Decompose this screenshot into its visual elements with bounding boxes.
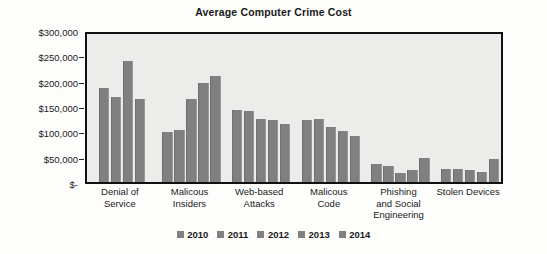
y-axis-tick-label: $300,000 [38, 27, 78, 38]
legend-swatch-icon [298, 231, 305, 238]
bar-group [87, 34, 157, 182]
legend-swatch-icon [177, 231, 184, 238]
legend-label: 2014 [349, 229, 370, 240]
y-axis-tick-label: $150,000 [38, 103, 78, 114]
legend-label: 2012 [268, 229, 289, 240]
bar[interactable] [419, 158, 430, 182]
bar[interactable] [489, 159, 500, 182]
legend-label: 2011 [228, 229, 249, 240]
bar[interactable] [135, 99, 146, 182]
category-label-line: Stolen Devices [425, 186, 511, 198]
legend-swatch-icon [339, 231, 346, 238]
category-label-line: Engineering [356, 209, 442, 221]
legend-swatch-icon [217, 231, 224, 238]
bar[interactable] [477, 172, 488, 182]
legend-item[interactable]: 2011 [217, 229, 248, 240]
bar[interactable] [383, 166, 394, 182]
bar[interactable] [198, 83, 209, 182]
chart-figure: Average Computer Crime Cost $300,000$250… [0, 0, 547, 254]
bar[interactable] [256, 119, 267, 182]
y-axis-tick-mark [79, 57, 84, 58]
category-label-line: and Social [356, 198, 442, 210]
y-axis-tick-label: $50,000 [44, 153, 78, 164]
legend-item[interactable]: 2013 [298, 229, 330, 240]
legend-item[interactable]: 2014 [339, 229, 371, 240]
bar[interactable] [244, 111, 255, 182]
y-axis-tick-mark [79, 83, 84, 84]
y-axis-tick-mark [79, 108, 84, 109]
bar[interactable] [268, 120, 279, 182]
x-axis-category-labels: Denial ofServiceMalicousInsidersWeb-base… [85, 186, 503, 232]
y-axis-tick-label: $250,000 [38, 52, 78, 63]
bar[interactable] [465, 170, 476, 182]
bar[interactable] [453, 169, 464, 182]
bar-group [435, 34, 505, 182]
bar[interactable] [111, 97, 122, 182]
legend-swatch-icon [257, 231, 264, 238]
legend-item[interactable]: 2010 [177, 229, 209, 240]
y-axis: $300,000$250,000$200,000$150,000$100,000… [0, 32, 78, 184]
bar[interactable] [350, 136, 361, 182]
bars-container [87, 34, 501, 182]
bar[interactable] [174, 130, 185, 182]
bar[interactable] [314, 119, 325, 182]
bar[interactable] [371, 164, 382, 182]
bar-group [366, 34, 436, 182]
bar-group [226, 34, 296, 182]
legend-label: 2013 [309, 229, 330, 240]
chart-legend: 20102011201220132014 [0, 229, 547, 240]
bar[interactable] [123, 61, 134, 182]
bar[interactable] [441, 169, 452, 182]
bar[interactable] [99, 88, 110, 182]
x-axis-category-label: Stolen Devices [425, 186, 511, 198]
bar[interactable] [338, 131, 349, 182]
bar[interactable] [280, 124, 291, 182]
chart-title: Average Computer Crime Cost [0, 6, 547, 18]
bar[interactable] [210, 76, 221, 182]
legend-label: 2010 [187, 229, 208, 240]
y-axis-tick-label: $200,000 [38, 77, 78, 88]
plot-area [85, 32, 503, 184]
y-axis-tick-mark [79, 133, 84, 134]
bar[interactable] [326, 127, 337, 182]
legend-item[interactable]: 2012 [257, 229, 289, 240]
bar[interactable] [302, 120, 313, 182]
bar-group [296, 34, 366, 182]
bar-group [157, 34, 227, 182]
bar[interactable] [162, 132, 173, 182]
bar[interactable] [407, 170, 418, 182]
y-axis-tick-label: $100,000 [38, 128, 78, 139]
bar[interactable] [395, 173, 406, 182]
bar[interactable] [186, 99, 197, 182]
y-axis-tick-mark [79, 159, 84, 160]
bar[interactable] [232, 110, 243, 182]
